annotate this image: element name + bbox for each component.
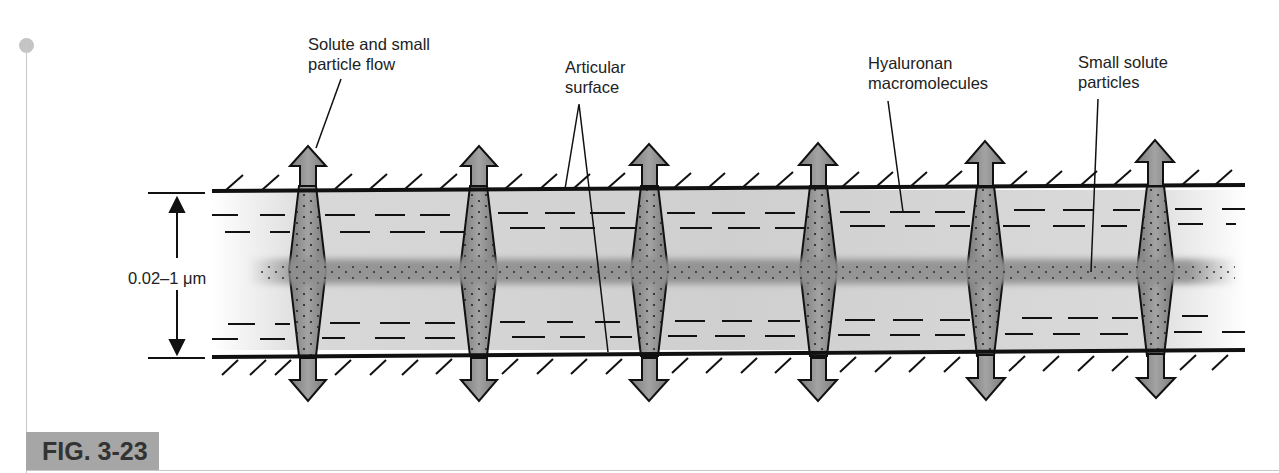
svg-text:surface: surface	[565, 78, 619, 96]
synovial-fluid-diagram: 0.02–1 μm Solute and small particle flow…	[0, 0, 1279, 473]
label-solute-flow: Solute and small particle flow	[308, 35, 430, 73]
label-hyaluronan: Hyaluronan macromolecules	[868, 54, 988, 92]
label-articular-surface: Articular surface	[565, 58, 626, 96]
svg-text:Small solute: Small solute	[1078, 53, 1168, 71]
svg-text:Articular: Articular	[565, 58, 626, 76]
surface-hatching-bottom	[222, 355, 1228, 375]
svg-text:Hyaluronan: Hyaluronan	[868, 54, 952, 72]
svg-text:particle flow: particle flow	[308, 55, 395, 73]
svg-text:Solute and small: Solute and small	[308, 35, 430, 53]
svg-text:macromolecules: macromolecules	[868, 74, 988, 92]
small-solute-particle-band	[248, 259, 1238, 284]
label-small-solute-particles: Small solute particles	[1078, 53, 1168, 91]
svg-text:particles: particles	[1078, 73, 1139, 91]
gap-dimension-label: 0.02–1 μm	[128, 269, 206, 287]
